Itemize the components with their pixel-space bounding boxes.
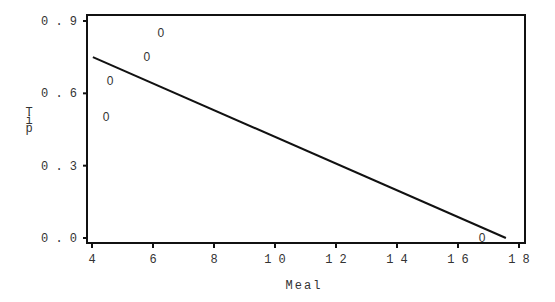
y-axis-label: Tip — [25, 106, 32, 136]
x-axis-label: Meal — [286, 279, 323, 293]
y-tick-label: 0 . 9 — [41, 15, 77, 29]
x-tick-label: 1 6 — [447, 253, 469, 267]
regression-line — [93, 57, 506, 238]
x-tick-label: 1 8 — [508, 253, 530, 267]
y-axis: 0 . 00 . 30 . 60 . 9 — [41, 15, 87, 246]
data-point: 0 — [103, 110, 110, 124]
y-axis-label-char: p — [25, 122, 32, 136]
y-tick-label: 0 . 6 — [41, 87, 77, 101]
x-tick-label: 1 4 — [386, 253, 408, 267]
plot-frame — [87, 15, 525, 243]
data-point: 0 — [144, 50, 151, 64]
plot-border — [87, 15, 525, 243]
y-tick-label: 0 . 0 — [41, 232, 77, 246]
x-tick-label: 6 — [149, 253, 156, 267]
fit-line-segment — [93, 57, 506, 238]
x-axis: 4681 01 21 41 61 8 — [88, 243, 529, 267]
x-tick-label: 1 2 — [325, 253, 347, 267]
x-tick-label: 1 0 — [264, 253, 286, 267]
y-tick-label: 0 . 3 — [41, 160, 77, 174]
data-point: 0 — [107, 74, 114, 88]
x-tick-label: 4 — [88, 253, 95, 267]
data-point: 0 — [158, 26, 165, 40]
data-points: 00000 — [103, 26, 486, 245]
data-point: 0 — [479, 231, 486, 245]
scatter-chart: 0 . 00 . 30 . 60 . 9 4681 01 21 41 61 8 … — [0, 0, 555, 302]
x-tick-label: 8 — [210, 253, 217, 267]
